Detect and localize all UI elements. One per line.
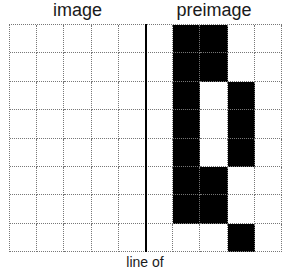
grid-cell [119,195,146,223]
grid-cell [228,110,255,138]
grid-cell [146,224,173,252]
grid-cell [200,139,227,167]
grid-cell [173,82,200,110]
grid-cell [119,53,146,81]
grid-cell [119,110,146,138]
grid-cell [200,53,227,81]
grid-cell [92,110,119,138]
grid-cell [173,110,200,138]
grid-cell [146,139,173,167]
grid-cell [255,82,282,110]
grid-cell [146,167,173,195]
grid-cell [255,25,282,53]
grid-cell [173,25,200,53]
grid-cell [37,25,64,53]
grid-cell [228,224,255,252]
grid-cell [119,25,146,53]
grid-cell [146,25,173,53]
grid-cell [92,195,119,223]
grid-cell [37,167,64,195]
grid-cell [64,167,91,195]
grid-cell [200,167,227,195]
grid-cell [64,224,91,252]
grid-cell [37,139,64,167]
grid-cell [200,110,227,138]
grid-cell [92,25,119,53]
grid-cell [10,167,37,195]
grid-cell [173,224,200,252]
grid-cell [200,195,227,223]
image-title: image [9,0,146,20]
grid-cell [146,82,173,110]
grid-cell [255,139,282,167]
grid-cell [228,25,255,53]
grid-cell [228,139,255,167]
grid-cell [10,139,37,167]
grid-cell [10,110,37,138]
image-preimage-divider [145,24,147,252]
grid-cell [10,195,37,223]
grid-cell [119,167,146,195]
grid-cell [64,25,91,53]
grid-cell [200,82,227,110]
grid-cell [92,53,119,81]
grid-cell [64,195,91,223]
grid-cell [92,82,119,110]
grid-cell [255,167,282,195]
grid-cell [119,82,146,110]
grid-cell [37,110,64,138]
grid-cell [173,167,200,195]
grid-cell [92,167,119,195]
preimage-title: preimage [146,0,282,20]
grid-cell [37,195,64,223]
grid-cell [173,53,200,81]
grid-cell [64,82,91,110]
grid-cell [10,25,37,53]
grid-cell [173,139,200,167]
grid-cell [255,195,282,223]
grid-cell [228,167,255,195]
grid-cell [255,110,282,138]
grid-cell [255,224,282,252]
grid-cell [119,139,146,167]
grid-cell [228,195,255,223]
grid-cell [173,195,200,223]
grid-cell [64,139,91,167]
grid-cell [228,82,255,110]
grid-cell [92,139,119,167]
grid-cell [37,53,64,81]
grid-cell [64,53,91,81]
grid-cell [228,53,255,81]
caption-text: line of [100,255,190,269]
grid-cell [37,224,64,252]
grid-cell [146,110,173,138]
grid-cell [10,82,37,110]
grid-cell [10,53,37,81]
grid-cell [146,195,173,223]
grid-cell [200,224,227,252]
grid-cell [92,224,119,252]
grid-cell [119,224,146,252]
grid-cell [64,110,91,138]
grid-cell [200,25,227,53]
grid-cell [255,53,282,81]
grid-cell [146,53,173,81]
grid-cell [37,82,64,110]
grid-cell [10,224,37,252]
